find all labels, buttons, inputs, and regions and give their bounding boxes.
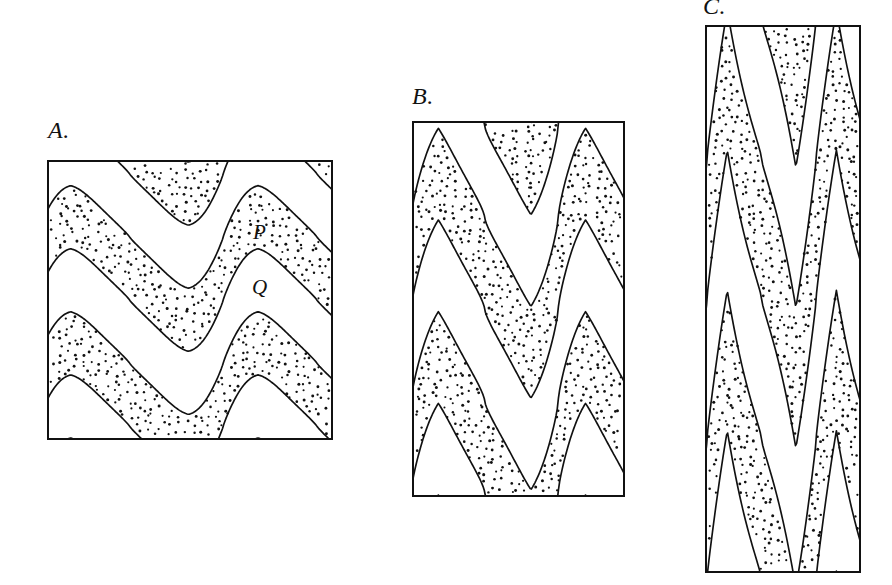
fold-profile-c <box>707 27 859 571</box>
panel-label-c: C. <box>703 0 726 18</box>
panel-c: C. <box>0 0 892 585</box>
cross-section-c <box>705 25 861 573</box>
figure-root: A.PQB.C. <box>0 0 892 585</box>
